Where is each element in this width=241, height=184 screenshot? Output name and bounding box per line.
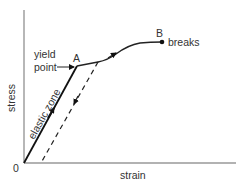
breaks-label: breaks: [168, 36, 200, 48]
origin-label: 0: [13, 162, 19, 174]
stress-strain-diagram: yield point A B breaks elastic zone stre…: [0, 0, 241, 184]
yield-label-line1: yield: [34, 48, 56, 60]
x-axis-label: strain: [120, 169, 146, 181]
break-point-dot: [160, 40, 165, 45]
elastic-zone-label: elastic zone: [25, 87, 62, 141]
down-arrow-icon: [74, 96, 78, 104]
plastic-curve: [77, 42, 162, 66]
point-a-label: A: [73, 52, 80, 64]
yield-label-line2: point: [34, 61, 57, 73]
point-b-label: B: [156, 27, 163, 39]
y-axis-label: stress: [5, 84, 17, 112]
